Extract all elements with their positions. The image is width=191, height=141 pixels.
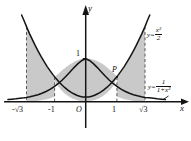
math-figure: y x O 1 P -√3 -1 1 √3 y=x²2 y=11+x² [0,0,191,141]
graph-canvas [0,0,191,141]
curve-label-witch: y=11+x² [148,80,171,96]
curve-label-witch-denominator: 1+x² [156,86,171,94]
y-tick-label-one: 1 [76,50,80,58]
curve-label-witch-prefix: y= [148,83,156,91]
point-label-P: P [112,66,117,74]
curve-label-parabola-denominator: 2 [155,34,162,42]
curve-label-witch-fraction: 11+x² [156,79,171,95]
x-tick-label-pos-sqrt3: √3 [139,106,147,114]
curve-label-witch-numerator: 1 [156,79,171,86]
curve-label-parabola-prefix: y= [147,31,155,39]
curve-label-leader [164,96,169,99]
point-P-marker [116,76,118,78]
x-tick-label-neg-one: -1 [48,106,55,114]
x-axis-label: x [180,104,184,113]
x-tick-label-pos-one: 1 [112,106,116,114]
curve-label-parabola-numerator: x² [155,27,162,34]
curve-label-parabola-fraction: x²2 [155,27,162,43]
origin-label: O [76,106,82,114]
y-axis-label: y [88,4,92,13]
curve-label-parabola: y=x²2 [147,28,162,44]
x-tick-label-neg-sqrt3: -√3 [12,106,23,114]
shaded-region-right [117,27,145,102]
